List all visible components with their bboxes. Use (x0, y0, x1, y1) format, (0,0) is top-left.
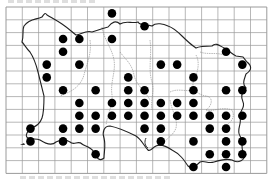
record-dot (238, 112, 247, 121)
record-dot (173, 99, 182, 108)
record-dot (238, 137, 247, 146)
record-dot (222, 163, 231, 172)
record-dot (108, 35, 117, 44)
record-dot (59, 124, 68, 133)
record-dot (42, 60, 51, 69)
record-dot (222, 48, 231, 57)
record-dot (222, 137, 231, 146)
record-dot (91, 150, 100, 159)
record-dot (108, 112, 117, 121)
record-dot (75, 35, 84, 44)
record-dot (189, 99, 198, 108)
record-dot (238, 150, 247, 159)
record-dot (26, 137, 35, 146)
record-dot (222, 86, 231, 95)
record-dot (59, 137, 68, 146)
distribution-map (0, 0, 270, 180)
record-dot (189, 163, 198, 172)
record-dot (75, 124, 84, 133)
record-dot (173, 60, 182, 69)
record-dot (124, 112, 133, 121)
record-dot (124, 99, 133, 108)
record-dot (205, 124, 214, 133)
record-dot (124, 86, 133, 95)
record-dot (157, 124, 166, 133)
record-dot (91, 112, 100, 121)
record-dot (189, 112, 198, 121)
record-dot (75, 112, 84, 121)
record-dot (140, 99, 149, 108)
record-dot (75, 60, 84, 69)
record-dot (238, 60, 247, 69)
record-dot (140, 22, 149, 31)
record-dot (108, 99, 117, 108)
record-dot (26, 124, 35, 133)
record-dot (108, 9, 117, 18)
record-dot (173, 112, 182, 121)
record-dot (238, 86, 247, 95)
parish-boundaries (60, 27, 233, 142)
cropped-caption-bottom (20, 176, 170, 179)
record-dot (140, 124, 149, 133)
record-dot (157, 137, 166, 146)
record-dot (157, 99, 166, 108)
record-dot (222, 124, 231, 133)
record-dot (189, 137, 198, 146)
record-dot (91, 86, 100, 95)
record-dot (157, 112, 166, 121)
record-dot (42, 73, 51, 82)
record-dot (140, 86, 149, 95)
record-dot (222, 150, 231, 159)
record-dot (59, 48, 68, 57)
record-dot (75, 99, 84, 108)
record-dot (189, 86, 198, 95)
record-dot (205, 150, 214, 159)
record-dot (140, 112, 149, 121)
record-dot (205, 112, 214, 121)
record-dot (91, 124, 100, 133)
record-dot (189, 73, 198, 82)
record-dot (157, 60, 166, 69)
record-dot (124, 73, 133, 82)
record-dot (59, 86, 68, 95)
record-dot (59, 35, 68, 44)
record-dot (222, 112, 231, 121)
